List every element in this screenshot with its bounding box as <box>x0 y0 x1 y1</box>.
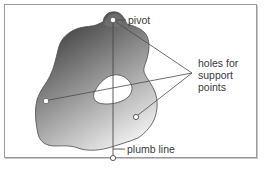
pivot-hole <box>110 17 116 23</box>
plumb-line-label: plumb line <box>127 143 175 155</box>
plumb-bob <box>110 155 115 160</box>
left-support-hole <box>44 99 49 104</box>
pivot-label: pivot <box>128 14 150 26</box>
holes-label-line-2: support <box>198 69 258 81</box>
holes-label: holes for support points <box>198 57 258 93</box>
holes-label-line-1: holes for <box>198 57 258 69</box>
irregular-lamina <box>35 12 157 150</box>
holes-label-line-3: points <box>198 81 258 93</box>
right-support-hole <box>133 114 138 119</box>
